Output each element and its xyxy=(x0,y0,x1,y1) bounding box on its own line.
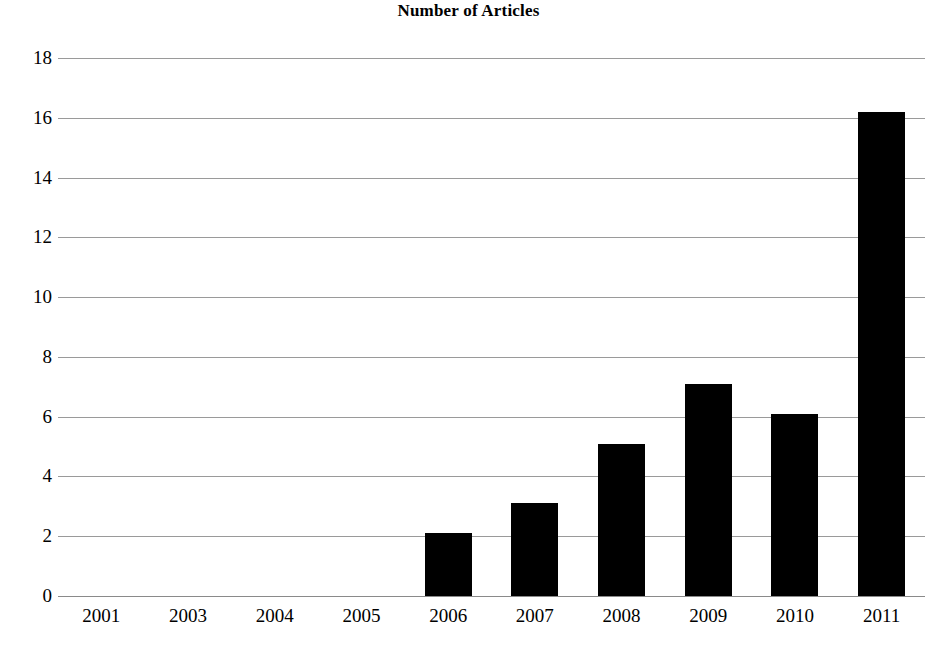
y-tick-label: 10 xyxy=(6,287,52,306)
bar-2009 xyxy=(685,384,732,596)
x-tick-label-2004: 2004 xyxy=(231,604,318,628)
y-tick-label: 14 xyxy=(6,168,52,187)
bar-2011 xyxy=(858,112,905,596)
bar-2007 xyxy=(511,503,558,596)
gridline xyxy=(58,297,925,298)
y-tick-label: 8 xyxy=(6,347,52,366)
y-tick-label: 4 xyxy=(6,466,52,485)
y-tick-label: 6 xyxy=(6,407,52,426)
gridline xyxy=(58,237,925,238)
y-axis: 024681012141618 xyxy=(0,58,52,596)
gridline xyxy=(58,357,925,358)
y-tick-label: 18 xyxy=(6,48,52,67)
chart-page: Number of Articles 024681012141618 20012… xyxy=(0,0,937,649)
plot-area xyxy=(58,58,925,596)
chart-title: Number of Articles xyxy=(0,1,937,21)
y-tick-label: 0 xyxy=(6,586,52,605)
x-tick-label-2008: 2008 xyxy=(578,604,665,628)
bar-2008 xyxy=(598,444,645,596)
gridline xyxy=(58,178,925,179)
x-tick-label-2003: 2003 xyxy=(145,604,232,628)
y-tick-label: 12 xyxy=(6,227,52,246)
x-tick-label-2007: 2007 xyxy=(492,604,579,628)
gridline xyxy=(58,58,925,59)
gridline xyxy=(58,118,925,119)
y-tick-label: 2 xyxy=(6,526,52,545)
x-axis: 2001200320042005200620072008200920102011 xyxy=(58,604,925,634)
x-tick-label-2009: 2009 xyxy=(665,604,752,628)
y-tick-label: 16 xyxy=(6,108,52,127)
x-tick-label-2011: 2011 xyxy=(838,604,925,628)
bar-2010 xyxy=(771,414,818,596)
x-axis-line xyxy=(58,596,925,597)
x-tick-label-2006: 2006 xyxy=(405,604,492,628)
x-tick-label-2001: 2001 xyxy=(58,604,145,628)
x-tick-label-2010: 2010 xyxy=(752,604,839,628)
x-tick-label-2005: 2005 xyxy=(318,604,405,628)
bar-2006 xyxy=(425,533,472,596)
